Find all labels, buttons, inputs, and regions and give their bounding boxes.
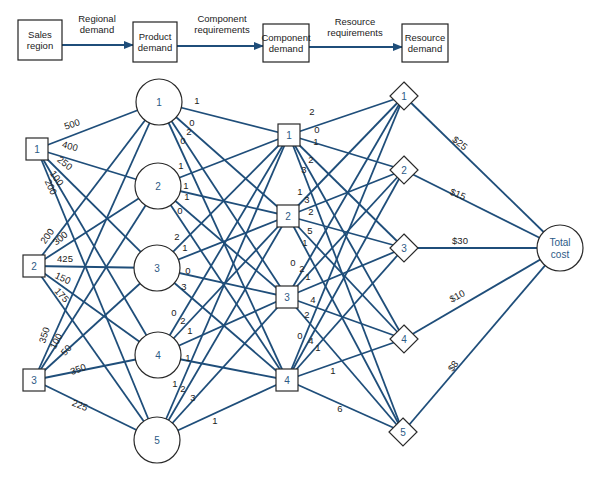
edge-resource-total: [404, 248, 560, 339]
edge-weight-label: 0: [177, 205, 182, 216]
node-label: 1: [34, 144, 40, 155]
edge-weight-label: 0: [180, 135, 185, 146]
node-label: 4: [155, 350, 161, 361]
node-label: 1: [401, 91, 407, 102]
header-arrow-label: requirements: [194, 24, 250, 35]
edge-weight-label: 6: [337, 403, 342, 414]
edge-weight-label: 2: [304, 309, 309, 320]
edge-weight-label: 425: [57, 253, 73, 264]
node-label: 3: [401, 243, 407, 254]
node-label: 1: [156, 97, 162, 108]
node-label: 3: [31, 375, 37, 386]
node-label: 3: [284, 292, 290, 303]
edge-weight-label: 0: [171, 307, 176, 318]
edge-resource-total: [404, 96, 560, 248]
edge-weight-label: 400: [61, 139, 79, 154]
header-box-label: demand: [408, 43, 442, 54]
edge-weight-label: 4: [308, 335, 313, 346]
header-arrow-label: Resource: [335, 16, 376, 27]
header-arrow-label: requirements: [327, 27, 383, 38]
edge-weight-label: 1: [297, 186, 302, 197]
edge-weight-label: 2: [180, 315, 185, 326]
edge-weight-label: 1: [330, 365, 335, 376]
edge-weight-label: 1: [178, 160, 183, 171]
edge-weight-label: 225: [71, 397, 90, 413]
edge-weight-label: 1: [183, 180, 188, 191]
node-label: 4: [284, 375, 290, 386]
edge-weight-label: 0: [314, 124, 319, 135]
edge-weight-label: 1: [187, 325, 192, 336]
edge-weight-label: $8: [445, 359, 460, 374]
edge-weight-label: 3: [304, 194, 309, 205]
node-label: 3: [154, 263, 160, 274]
header-box-label: demand: [138, 42, 172, 53]
edge-weight-label: $30: [452, 235, 468, 246]
edge-weight-label: $10: [447, 287, 466, 304]
node-label: 2: [401, 165, 407, 176]
edge-weight-label: 1: [184, 191, 189, 202]
node-label: 1: [286, 130, 292, 141]
edge-weight-label: 5: [307, 225, 312, 236]
edge-product-component: [157, 216, 288, 440]
edge-weight-label: 2: [308, 206, 313, 217]
edge-weight-label: 1: [212, 415, 217, 426]
header-box-label: Component: [261, 32, 310, 43]
edge-weight-label: 1: [315, 342, 320, 353]
edge-resource-total: [403, 248, 560, 432]
edge-resource-total: [404, 170, 560, 248]
header-arrow-label: Component: [197, 13, 246, 24]
header-box-label: Product: [139, 31, 172, 42]
edge-weight-label: 500: [63, 116, 81, 131]
node-label: 5: [154, 435, 160, 446]
header-flow: RegionaldemandComponentrequirementsResou…: [18, 13, 448, 62]
edge-weight-label: 4: [310, 294, 315, 305]
edge-weight-label: 3: [181, 281, 186, 292]
node-label: 4: [401, 334, 407, 345]
edge-weight-label: 150: [53, 270, 72, 287]
edge-weight-label: $25: [450, 134, 469, 152]
edge-weight-label: 1: [185, 352, 190, 363]
edge-weight-label: 0: [297, 330, 302, 341]
edge-weight-label: 3: [301, 164, 306, 175]
edge-weight-label: 1: [302, 237, 307, 248]
resource-requirements-network-diagram: RegionaldemandComponentrequirementsResou…: [0, 0, 599, 478]
header-box-label: demand: [269, 43, 303, 54]
edge-weight-label: 2: [299, 263, 304, 274]
edge-weight-label: 2: [186, 126, 191, 137]
header-box-label: Sales: [28, 29, 52, 40]
edge-weight-label: 2: [180, 383, 185, 394]
edge-component-resource: [289, 96, 404, 135]
edge-weight-label: 1: [313, 136, 318, 147]
header-box-label: Resource: [405, 32, 446, 43]
header-arrow-label: Regional: [78, 13, 116, 24]
edge-weight-label: 1: [194, 95, 199, 106]
edge-weight-label: 1: [172, 378, 177, 389]
node-label: 2: [155, 181, 161, 192]
edge-weight-label: 1: [305, 271, 310, 282]
edge-weight-label: 3: [190, 392, 195, 403]
edge-weight-label: 350: [69, 361, 88, 377]
edge-weight-label: 2: [308, 154, 313, 165]
node-label: 2: [31, 261, 37, 272]
node-label: 2: [285, 211, 291, 222]
edge-weight-label: 0: [185, 265, 190, 276]
header-box-label: region: [27, 40, 53, 51]
node-label: cost: [551, 249, 570, 260]
edge-weight-label: 0: [290, 257, 295, 268]
edge-weight-label: 2: [309, 106, 314, 117]
node-label: 5: [400, 427, 406, 438]
edge-component-resource: [289, 135, 403, 432]
node-label: Total: [549, 237, 570, 248]
edge-weight-label: 2: [174, 231, 179, 242]
header-arrow-label: demand: [80, 24, 114, 35]
edge-weight-label: 1: [182, 242, 187, 253]
edge-component-resource: [288, 216, 403, 432]
